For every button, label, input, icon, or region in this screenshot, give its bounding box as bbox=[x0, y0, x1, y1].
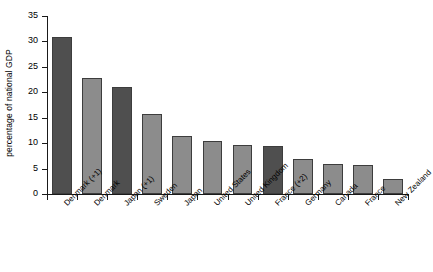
y-tick-label: 35 bbox=[16, 11, 38, 20]
y-tick-label: 25 bbox=[16, 62, 38, 71]
y-tick-label: 20 bbox=[16, 87, 38, 96]
y-tick-label: 10 bbox=[16, 138, 38, 147]
bar bbox=[383, 179, 403, 194]
y-tick-label: 30 bbox=[16, 36, 38, 45]
y-tick-label: 0 bbox=[16, 189, 38, 198]
y-tick-label: 5 bbox=[16, 164, 38, 173]
x-tick-mark bbox=[47, 195, 48, 200]
y-axis-label-text: percentage of national GDP bbox=[4, 49, 14, 157]
y-tick-label: 15 bbox=[16, 113, 38, 122]
bar bbox=[52, 37, 72, 194]
y-axis-label: percentage of national GDP bbox=[0, 0, 17, 205]
plot-area bbox=[47, 16, 408, 194]
bar bbox=[203, 141, 223, 194]
